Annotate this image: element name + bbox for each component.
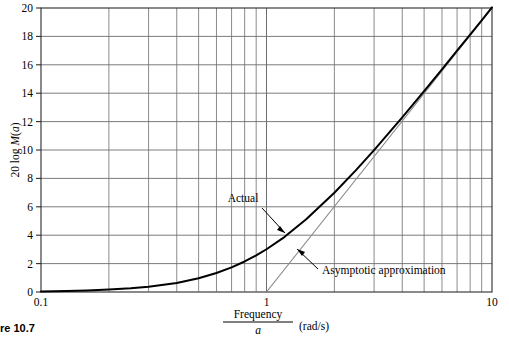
annotation-asymptotic-label: Asymptotic approximation xyxy=(322,264,446,277)
x-axis-title-units: (rad/s) xyxy=(299,320,329,333)
x-axis-tick-label: 10 xyxy=(486,296,498,308)
y-axis-ticks xyxy=(36,8,41,292)
y-axis-tick-label: 20 xyxy=(22,2,34,14)
figure-caption: re 10.7 xyxy=(0,322,35,334)
y-axis-tick-label: 16 xyxy=(22,59,34,71)
y-axis-title: 20 logM(a) xyxy=(9,122,22,177)
figure-container: 02468101214161820 0.1110 Actual Asymptot… xyxy=(0,0,509,342)
y-axis-tick-label: 18 xyxy=(22,30,34,42)
y-axis-tick-label: 8 xyxy=(27,172,33,184)
x-axis-tick-labels: 0.1110 xyxy=(34,296,498,308)
y-axis-tick-label: 14 xyxy=(22,87,34,99)
bode-magnitude-chart: 02468101214161820 0.1110 Actual Asymptot… xyxy=(0,0,509,342)
y-axis-tick-label: 2 xyxy=(27,258,33,270)
y-axis-tick-label: 0 xyxy=(27,286,33,298)
x-axis-tick-label: 1 xyxy=(264,296,270,308)
y-axis-tick-label: 12 xyxy=(22,116,34,128)
x-axis-title: Frequency a (rad/s) xyxy=(223,308,329,336)
y-axis-tick-label: 10 xyxy=(22,144,34,156)
annotation-actual-label: Actual xyxy=(228,192,259,204)
x-axis-tick-label: 0.1 xyxy=(34,296,49,308)
y-axis-tick-labels: 02468101214161820 xyxy=(22,2,34,298)
x-axis-title-numerator: Frequency xyxy=(234,308,283,321)
x-axis-title-denominator: a xyxy=(255,324,261,336)
y-axis-tick-label: 6 xyxy=(27,201,33,213)
y-axis-tick-label: 4 xyxy=(27,229,33,241)
